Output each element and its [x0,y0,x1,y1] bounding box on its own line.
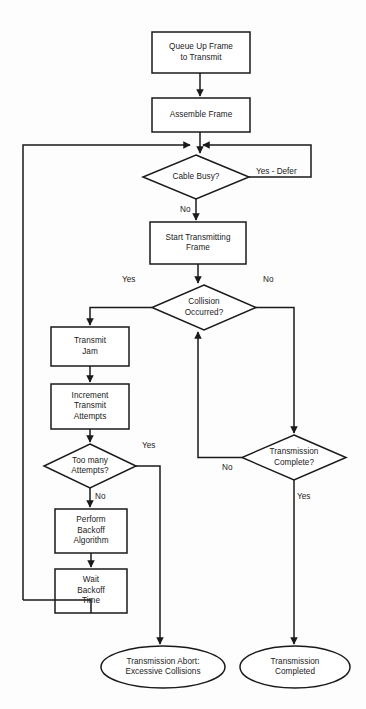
node-too-many-attempts[interactable] [44,444,136,488]
edge-collision-yes [90,308,152,326]
node-cable-busy[interactable] [143,155,249,199]
edge-collision-no [256,308,294,434]
node-start-transmitting-frame[interactable] [150,222,246,264]
node-collision-occurred[interactable] [152,285,256,330]
edge-transcomplete-no [198,332,242,458]
node-wait-backoff-time[interactable] [55,569,127,613]
node-perform-backoff-algorithm[interactable] [55,509,127,553]
node-queue-up-frame[interactable] [152,32,250,73]
edge-toomany-yes [136,466,160,644]
flowchart-canvas: Queue Up Frame to Transmit Assemble Fram… [0,0,366,709]
node-transmission-complete[interactable] [242,435,346,480]
node-transmission-completed[interactable] [240,646,350,688]
node-increment-transmit-attempts[interactable] [51,384,129,429]
node-assemble-frame[interactable] [152,98,250,132]
node-transmit-jam[interactable] [51,327,129,366]
node-transmission-abort[interactable] [101,646,225,688]
